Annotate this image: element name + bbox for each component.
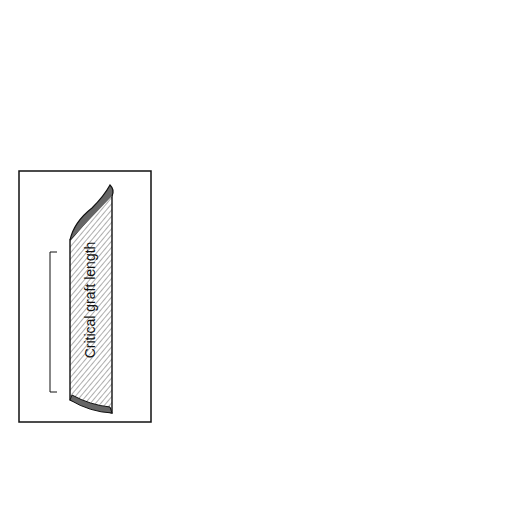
- length-bracket: [50, 252, 57, 392]
- surgical-illustration: [0, 0, 513, 511]
- critical-graft-length-label: Critical graft length: [82, 230, 102, 370]
